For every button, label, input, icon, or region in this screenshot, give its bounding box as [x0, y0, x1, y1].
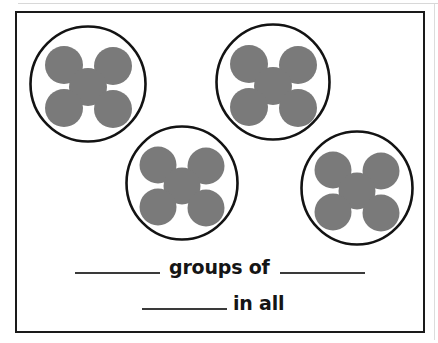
prompt-line-2: in all — [142, 293, 284, 313]
items-per-group-blank[interactable] — [280, 257, 365, 274]
prompt-text-area: groups of in all — [17, 252, 423, 331]
scan-artifact-top-line — [18, 3, 438, 4]
scan-artifact-right-line — [434, 4, 435, 340]
worksheet-page: groups of in all — [0, 0, 438, 343]
groups-of-label: groups of — [169, 258, 270, 277]
in-all-label: in all — [233, 294, 284, 313]
groups-count-blank[interactable] — [75, 257, 160, 274]
prompt-line-1: groups of — [75, 257, 365, 277]
total-count-blank[interactable] — [142, 293, 227, 310]
